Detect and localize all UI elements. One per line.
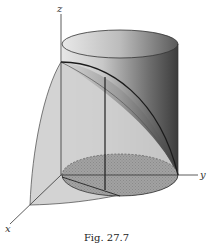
z-axis-label: z: [56, 3, 63, 14]
figure-caption: Fig. 27.7: [0, 232, 213, 243]
cylinder-top: [62, 30, 178, 58]
y-axis-label: y: [199, 169, 206, 180]
